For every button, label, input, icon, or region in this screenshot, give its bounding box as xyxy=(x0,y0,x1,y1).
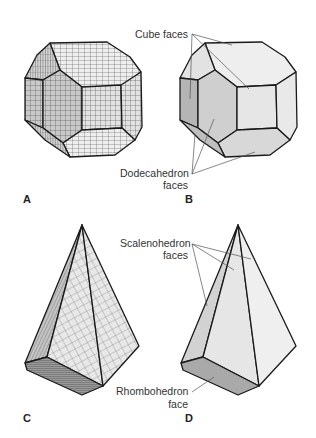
panel-c-crystal xyxy=(25,225,139,395)
a-cube-face xyxy=(82,85,122,130)
panel-a-crystal xyxy=(25,42,142,157)
label-rhombohedron-line2: face xyxy=(168,398,188,410)
label-scalenohedron-line1: Scalenohedron xyxy=(120,237,191,249)
b-cube-face xyxy=(237,85,277,130)
panel-d-crystal xyxy=(181,225,296,395)
label-rhombohedron-line1: Rhombohedron xyxy=(116,385,189,397)
label-dodecahedron-line2: faces xyxy=(163,179,188,191)
label-dodecahedron-line1: Dodecahedron xyxy=(120,167,189,179)
label-scalenohedron-line2: faces xyxy=(163,249,188,261)
panel-letter-d: D xyxy=(185,412,193,424)
panel-letter-c: C xyxy=(23,412,31,424)
crystal-figure: A Cube faces Dodecahedron faces B C xyxy=(0,0,316,438)
panel-letter-a: A xyxy=(23,193,31,205)
panel-letter-b: B xyxy=(185,193,193,205)
panel-b-crystal xyxy=(180,42,297,157)
label-cube-faces: Cube faces xyxy=(135,28,188,40)
